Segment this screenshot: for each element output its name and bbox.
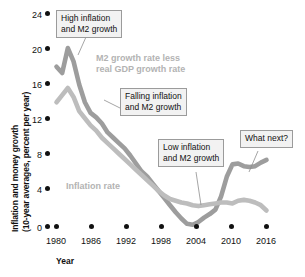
leader-line-what-next	[249, 151, 258, 172]
callout-high-inflation-line2: and M2 growth	[61, 24, 117, 35]
callout-low-inflation-line2: and M2 growth	[163, 153, 219, 164]
leader-line-low-inflation	[196, 172, 201, 205]
x-tick-dot-2016	[264, 224, 269, 229]
x-tick-label-2010: 2010	[215, 237, 247, 246]
x-tick-label-2004: 2004	[180, 237, 212, 246]
x-tick-dot-2004	[194, 224, 199, 229]
callout-falling-inflation-line1: Falling inflation	[125, 91, 182, 102]
x-tick-dot-1986	[89, 224, 94, 229]
x-tick-dot-1998	[159, 224, 164, 229]
chart-figure: Inflation and money growth (10-year aver…	[0, 0, 305, 277]
callout-low-inflation-line1: Low inflation	[163, 142, 219, 153]
series-label-inflation-rate: Inflation rate	[66, 181, 120, 192]
x-tick-label-1992: 1992	[110, 237, 142, 246]
x-tick-label-1980: 1980	[40, 237, 72, 246]
x-tick-label-1998: 1998	[145, 237, 177, 246]
series-label-m2-growth: M2 growth rate less real GDP growth rate	[96, 53, 185, 75]
callout-high-inflation-line1: High inflation	[61, 13, 117, 24]
callout-high-inflation: High inflation and M2 growth	[56, 10, 122, 38]
x-tick-dot-2010	[229, 224, 234, 229]
series-label-m2-line2: real GDP growth rate	[96, 64, 185, 75]
callout-falling-inflation-line2: and M2 growth	[125, 102, 182, 113]
x-tick-label-2016: 2016	[250, 237, 282, 246]
x-tick-dot-1980	[54, 224, 59, 229]
callout-what-next-line1: What next?	[245, 133, 288, 144]
x-tick-dot-1992	[124, 224, 129, 229]
series-label-inflation-line1: Inflation rate	[66, 181, 120, 192]
callout-what-next: What next?	[240, 130, 293, 148]
x-tick-label-1986: 1986	[75, 237, 107, 246]
callout-falling-inflation: Falling inflation and M2 growth	[120, 88, 187, 116]
x-axis-title: Year	[56, 256, 74, 266]
series-label-m2-line1: M2 growth rate less	[96, 53, 185, 64]
leader-line-high-inflation	[78, 37, 86, 55]
callout-low-inflation: Low inflation and M2 growth	[158, 139, 224, 167]
